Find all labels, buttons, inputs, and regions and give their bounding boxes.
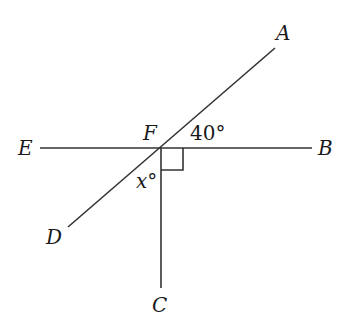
label-B: B bbox=[317, 136, 333, 160]
label-F: F bbox=[142, 121, 158, 145]
label-C: C bbox=[152, 293, 167, 317]
right-angle-marker bbox=[161, 148, 183, 170]
angle-x-label: x° bbox=[136, 169, 157, 193]
angle-40-label: 40° bbox=[190, 121, 225, 145]
label-A: A bbox=[274, 21, 290, 45]
label-E: E bbox=[17, 136, 33, 160]
geometry-diagram: A B C D E F 40° x° bbox=[0, 0, 351, 331]
line-AD bbox=[68, 48, 275, 227]
label-D: D bbox=[45, 225, 62, 249]
